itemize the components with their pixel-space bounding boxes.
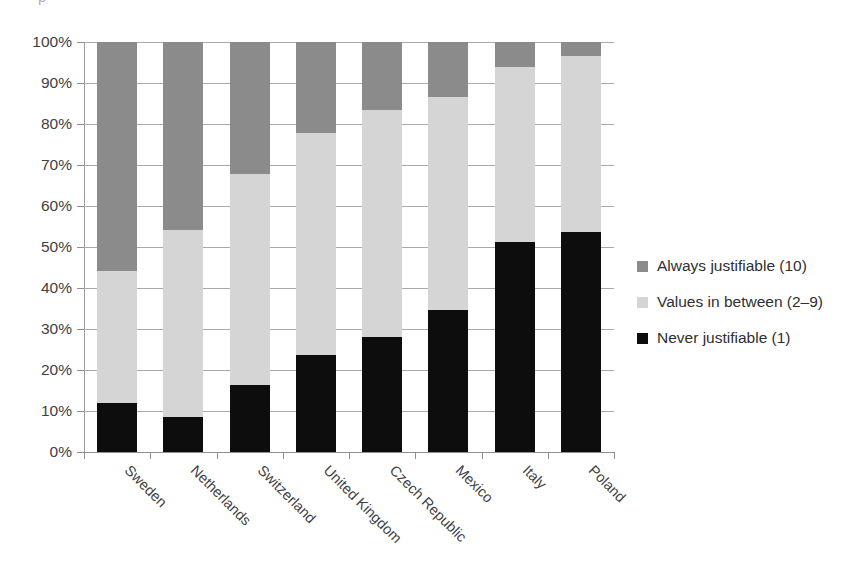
x-tick-4 [349, 452, 350, 459]
legend-item[interactable]: Never justifiable (1) [637, 320, 862, 356]
y-tick-label-30: 30% [12, 321, 72, 337]
y-tick-label-40: 40% [12, 280, 72, 296]
x-tick-5 [415, 452, 416, 459]
bar-segment-never-justifiable[interactable] [97, 403, 137, 452]
x-tick-0 [84, 452, 85, 459]
bar-segment-values-in-between[interactable] [428, 97, 468, 310]
bar-segment-always-justifiable[interactable] [495, 42, 535, 67]
y-tick-40 [77, 288, 84, 289]
bar-group[interactable] [561, 42, 601, 452]
bar-segment-values-in-between[interactable] [230, 174, 270, 384]
y-tick-10 [77, 411, 84, 412]
legend-item-label: Always justifiable (10) [657, 258, 807, 274]
x-category-label-italy: Italy [519, 462, 549, 492]
chart-legend: Always justifiable (10)Values in between… [637, 248, 862, 356]
legend-item[interactable]: Values in between (2–9) [637, 284, 862, 320]
bar-segment-values-in-between[interactable] [97, 271, 137, 403]
x-category-label-sweden: Sweden [122, 462, 170, 510]
stacked-bar-chart: p 100%90%80%70%60%50%40%30%20%10%0% Swed… [0, 0, 866, 584]
y-tick-label-60: 60% [12, 198, 72, 214]
bar-segment-never-justifiable[interactable] [428, 310, 468, 452]
y-tick-50 [77, 247, 84, 248]
bar-segment-never-justifiable[interactable] [296, 355, 336, 452]
bar-segment-values-in-between[interactable] [561, 56, 601, 232]
bar-segment-always-justifiable[interactable] [163, 42, 203, 230]
bar-group[interactable] [495, 42, 535, 452]
y-tick-label-50: 50% [12, 239, 72, 255]
bar-group[interactable] [163, 42, 203, 452]
y-tick-label-10: 10% [12, 403, 72, 419]
y-tick-70 [77, 165, 84, 166]
legend-swatch-always [637, 261, 648, 272]
bar-group[interactable] [230, 42, 270, 452]
bar-segment-never-justifiable[interactable] [561, 232, 601, 452]
clipped-title-strip: p [0, 0, 866, 10]
bar-group[interactable] [97, 42, 137, 452]
bar-segment-never-justifiable[interactable] [230, 385, 270, 452]
x-category-label-mexico: Mexico [453, 462, 497, 506]
bar-segment-always-justifiable[interactable] [428, 42, 468, 97]
bar-segment-values-in-between[interactable] [495, 67, 535, 242]
x-tick-2 [217, 452, 218, 459]
y-tick-label-80: 80% [12, 116, 72, 132]
y-tick-0 [77, 452, 84, 453]
y-tick-100 [77, 42, 84, 43]
legend-swatch-between [637, 297, 648, 308]
legend-item-label: Never justifiable (1) [657, 330, 791, 346]
x-tick-1 [150, 452, 151, 459]
bar-group[interactable] [428, 42, 468, 452]
x-tick-3 [283, 452, 284, 459]
y-tick-label-0: 0% [12, 444, 72, 460]
bar-segment-always-justifiable[interactable] [296, 42, 336, 133]
bar-segment-never-justifiable[interactable] [163, 417, 203, 452]
bar-segment-values-in-between[interactable] [296, 133, 336, 355]
bar-segment-values-in-between[interactable] [362, 110, 402, 337]
y-tick-90 [77, 83, 84, 84]
y-axis-labels: 100%90%80%70%60%50%40%30%20%10%0% [6, 0, 72, 584]
y-tick-label-20: 20% [12, 362, 72, 378]
legend-item-label: Values in between (2–9) [657, 294, 823, 310]
bar-segment-always-justifiable[interactable] [230, 42, 270, 174]
legend-item[interactable]: Always justifiable (10) [637, 248, 862, 284]
y-tick-label-90: 90% [12, 75, 72, 91]
bar-segment-values-in-between[interactable] [163, 230, 203, 417]
x-category-label-poland: Poland [586, 462, 629, 505]
legend-swatch-never [637, 333, 648, 344]
bar-segment-always-justifiable[interactable] [97, 42, 137, 271]
x-tick-7 [548, 452, 549, 459]
bar-group[interactable] [296, 42, 336, 452]
y-tick-label-100: 100% [12, 34, 72, 50]
y-tick-30 [77, 329, 84, 330]
y-tick-20 [77, 370, 84, 371]
y-tick-60 [77, 206, 84, 207]
x-category-label-netherlands: Netherlands [188, 462, 255, 529]
x-tick-8 [614, 452, 615, 459]
y-tick-80 [77, 124, 84, 125]
bar-segment-always-justifiable[interactable] [362, 42, 402, 110]
bar-group[interactable] [362, 42, 402, 452]
bar-segment-always-justifiable[interactable] [561, 42, 601, 56]
x-tick-6 [482, 452, 483, 459]
x-category-label-switzerland: Switzerland [254, 462, 318, 526]
bar-segment-never-justifiable[interactable] [495, 242, 535, 452]
plot-area [84, 42, 614, 452]
bar-segment-never-justifiable[interactable] [362, 337, 402, 452]
y-tick-label-70: 70% [12, 157, 72, 173]
